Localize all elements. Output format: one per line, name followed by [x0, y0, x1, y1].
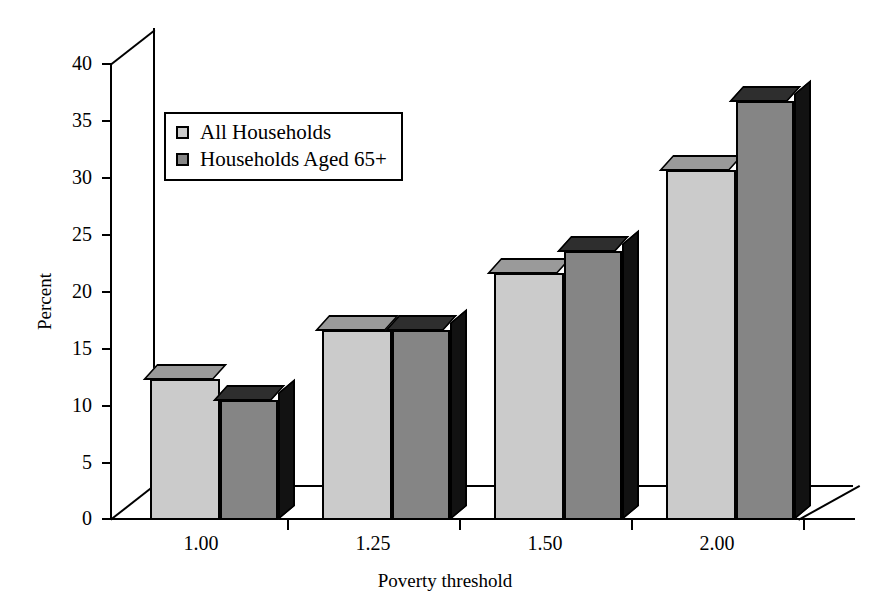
- bar-front-face: [564, 251, 622, 520]
- y-tick-label-10: 10: [52, 395, 92, 415]
- legend-label-households-65: Households Aged 65+: [200, 149, 387, 170]
- bar-top-face: [487, 258, 571, 274]
- bar-top-face: [729, 86, 801, 102]
- legend-item-all-households[interactable]: All Households: [176, 119, 387, 146]
- bar-side-face: [450, 309, 467, 520]
- legend-swatch-light-icon: [176, 126, 189, 139]
- bar-side-face: [622, 230, 639, 520]
- y-tick-label-35: 35: [52, 110, 92, 130]
- y-tick-label-25: 25: [52, 224, 92, 244]
- axis-depth-edge-bottom: [110, 485, 155, 521]
- bar-side-face: [278, 379, 295, 520]
- bar-front-face: [150, 379, 220, 520]
- y-tick-30: [102, 177, 111, 179]
- y-tick-label-5: 5: [52, 452, 92, 472]
- bar-top-face: [213, 385, 285, 401]
- legend-item-households-65[interactable]: Households Aged 65+: [176, 146, 387, 173]
- bar-top-face: [557, 236, 629, 252]
- bar-all-households-1.00: [150, 364, 220, 520]
- legend-swatch-dark-icon: [176, 153, 189, 166]
- y-tick-15: [102, 348, 111, 350]
- bar-front-face: [494, 273, 564, 520]
- y-tick-20: [102, 291, 111, 293]
- x-tick-label-2.00: 2.00: [657, 533, 777, 553]
- legend: All Households Households Aged 65+: [164, 112, 403, 181]
- bar-all-households-2.00: [666, 155, 736, 520]
- x-tick-1: [287, 519, 289, 530]
- y-tick-label-0: 0: [52, 508, 92, 528]
- bar-households-65-1.00: [220, 385, 278, 520]
- y-tick-label-20: 20: [52, 281, 92, 301]
- y-tick-label-30: 30: [52, 167, 92, 187]
- bar-top-face: [143, 364, 227, 380]
- y-tick-10: [102, 405, 111, 407]
- bar-front-face: [322, 330, 392, 520]
- y-tick-0: [102, 518, 111, 520]
- x-tick-label-1.25: 1.25: [313, 533, 433, 553]
- bar-all-households-1.50: [494, 258, 564, 520]
- bar-front-face: [736, 101, 794, 520]
- bar-front-face: [666, 170, 736, 520]
- x-tick-2: [459, 519, 461, 530]
- x-tick-label-1.50: 1.50: [485, 533, 605, 553]
- y-tick-label-40: 40: [52, 53, 92, 73]
- bar-households-65-1.50: [564, 236, 622, 520]
- axis-depth-edge-top: [110, 30, 155, 66]
- legend-label-all-households: All Households: [200, 122, 331, 143]
- bar-front-face: [392, 330, 450, 520]
- y-tick-25: [102, 234, 111, 236]
- x-axis-title: Poverty threshold: [0, 570, 890, 592]
- y-axis-title: Percent: [34, 273, 56, 330]
- bar-top-face: [385, 315, 457, 331]
- bar-chart: 40 35 30 25 20 15 10 5 0 Percent 1.00 1.…: [0, 0, 890, 609]
- bar-all-households-1.25: [322, 315, 392, 520]
- y-tick-5: [102, 462, 111, 464]
- y-tick-35: [102, 120, 111, 122]
- bar-side-face: [794, 80, 811, 520]
- y-tick-40: [102, 63, 111, 65]
- x-tick-3: [631, 519, 633, 530]
- y-tick-label-15: 15: [52, 338, 92, 358]
- x-tick-4: [803, 519, 805, 530]
- bar-front-face: [220, 400, 278, 520]
- bar-households-65-1.25: [392, 315, 450, 520]
- bar-top-face: [659, 155, 743, 171]
- bar-households-65-2.00: [736, 86, 794, 520]
- x-tick-label-1.00: 1.00: [141, 533, 261, 553]
